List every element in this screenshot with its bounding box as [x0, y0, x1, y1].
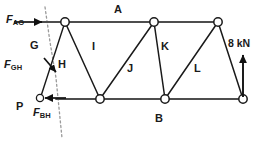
region-label-l: L — [194, 63, 201, 74]
region-label-b: B — [155, 113, 163, 124]
region-label-h: H — [58, 59, 66, 70]
caption-strip — [0, 134, 268, 146]
truss-diagram-figure: FAG FGH FBH 8 kN A B G H I J K L P — [0, 0, 268, 146]
truss-drawing-canvas — [0, 0, 268, 146]
force-label-fgh-base: F — [4, 58, 11, 70]
joint-point-p — [36, 94, 43, 101]
truss-joints — [36, 18, 247, 103]
force-label-fbh-base: F — [33, 106, 40, 118]
joint-top-right — [214, 18, 222, 26]
force-label-fgh-sub: GH — [11, 63, 22, 72]
joint-top-left — [61, 18, 69, 26]
diagonal-member-k — [165, 22, 218, 99]
force-label-fgh: FGH — [4, 59, 22, 70]
force-label-fag: FAG — [6, 14, 24, 25]
region-label-i: I — [92, 41, 95, 52]
force-label-fag-base: F — [6, 13, 13, 25]
joint-top-middle — [150, 18, 158, 26]
joint-bottom-left — [96, 95, 104, 103]
diagonal-member-i — [100, 22, 154, 99]
point-label-p: P — [16, 101, 23, 112]
region-label-j: J — [127, 63, 133, 74]
region-label-g: G — [30, 40, 39, 51]
force-label-fag-sub: AG — [13, 18, 24, 27]
force-label-fbh-sub: BH — [40, 111, 51, 120]
region-label-a: A — [114, 4, 122, 15]
joint-bottom-middle — [161, 95, 169, 103]
force-label-fbh: FBH — [33, 107, 51, 118]
diagonal-member-j — [154, 22, 165, 99]
diagonal-member-l — [218, 22, 243, 99]
load-label-8kn: 8 kN — [228, 38, 250, 49]
truss-members — [36, 22, 243, 99]
region-label-k: K — [161, 41, 169, 52]
diagonal-member-h — [65, 22, 100, 99]
